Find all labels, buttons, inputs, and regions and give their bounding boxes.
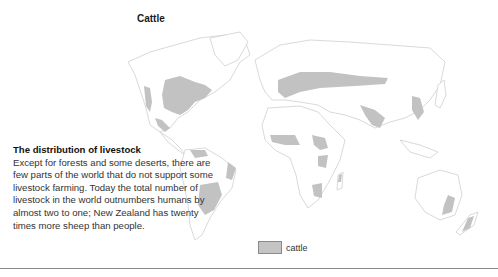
- bottom-rule: [0, 268, 498, 269]
- world-map: [0, 0, 498, 277]
- caption: The distribution of livestock Except for…: [13, 144, 213, 232]
- legend-label-cattle: cattle: [286, 243, 308, 253]
- caption-body: Except for forests and some deserts, the…: [13, 157, 213, 233]
- land-australia: [415, 170, 462, 220]
- land-africa: [262, 106, 345, 208]
- land-se-asia: [400, 140, 438, 158]
- caption-heading: The distribution of livestock: [13, 144, 213, 157]
- legend: cattle: [258, 241, 308, 254]
- legend-swatch-cattle: [258, 241, 282, 254]
- map-title: Cattle: [137, 13, 165, 24]
